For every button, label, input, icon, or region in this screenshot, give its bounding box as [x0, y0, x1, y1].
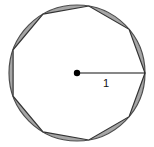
- center-point-dot: [74, 70, 80, 76]
- geometry-figure: 1: [0, 0, 154, 147]
- circle-polygon-diagram: [0, 0, 154, 147]
- radius-length-label: 1: [103, 78, 109, 89]
